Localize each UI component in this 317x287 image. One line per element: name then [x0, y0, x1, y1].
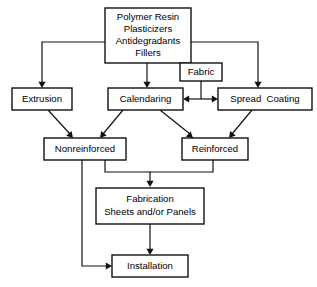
connector-line — [105, 160, 150, 184]
connector-line — [232, 110, 252, 134]
node-label: Antidegradants — [116, 35, 181, 46]
connector-nonreinforced-to-fabrication — [105, 160, 154, 187]
node-label: Spread Coating — [230, 93, 299, 104]
connector-materials-to-calendaring — [143, 63, 150, 88]
node-label: Plasticizers — [124, 23, 173, 34]
node-materials[interactable]: Polymer ResinPlasticizersAntidegradantsF… — [105, 8, 191, 63]
arrowhead — [143, 82, 150, 88]
connector-fabric-to-calendaring — [183, 95, 201, 102]
node-fabrication[interactable]: FabricationSheets and/or Panels — [96, 188, 204, 224]
arrowhead — [254, 82, 261, 88]
node-reinforced[interactable]: Reinforced — [182, 138, 248, 160]
node-label: Fillers — [135, 47, 161, 58]
arrowhead — [146, 181, 153, 187]
connector-fabric-to-spreadcoating — [201, 95, 218, 102]
arrowhead — [229, 131, 236, 138]
node-label: Extrusion — [22, 93, 62, 104]
node-label: Installation — [127, 260, 173, 271]
node-label: Fabrication — [126, 193, 173, 204]
flowchart-canvas: Polymer ResinPlasticizersAntidegradantsF… — [0, 0, 317, 287]
connector-fabrication-to-installation — [146, 224, 153, 255]
node-extrusion[interactable]: Extrusion — [12, 88, 72, 110]
connector-calendaring-to-nonreinforced — [100, 110, 123, 138]
connector-spreadcoating-to-reinforced — [229, 110, 252, 138]
arrowhead — [66, 131, 73, 138]
node-layer: Polymer ResinPlasticizersAntidegradantsF… — [12, 8, 312, 277]
node-nonreinforced[interactable]: Nonreinforced — [44, 138, 126, 160]
arrowhead — [212, 95, 218, 102]
node-label: Calendaring — [120, 93, 172, 104]
connector-extrusion-to-nonreinforced — [48, 110, 73, 138]
connector-line — [103, 110, 123, 134]
connector-line — [42, 42, 105, 86]
connector-reinforced-to-fabrication — [150, 160, 213, 172]
arrowhead — [146, 249, 153, 255]
arrowhead — [100, 131, 107, 138]
connector-line — [150, 160, 213, 172]
node-spread-coating[interactable]: Spread Coating — [218, 88, 312, 110]
arrowhead — [183, 95, 189, 102]
connector-calendaring-to-reinforced — [160, 110, 193, 138]
connector-line — [160, 110, 190, 134]
node-label: Nonreinforced — [55, 143, 115, 154]
node-label: Fabric — [188, 66, 215, 77]
connector-line — [48, 110, 70, 134]
node-label: Sheets and/or Panels — [104, 206, 196, 217]
arrowhead — [106, 262, 112, 269]
connector-materials-to-extrusion — [38, 42, 105, 88]
node-label: Reinforced — [192, 143, 238, 154]
node-fabric[interactable]: Fabric — [180, 63, 222, 81]
flowchart-svg: Polymer ResinPlasticizersAntidegradantsF… — [0, 0, 317, 287]
node-label: Polymer Resin — [117, 11, 179, 22]
node-calendaring[interactable]: Calendaring — [108, 88, 183, 110]
arrowhead — [38, 82, 45, 88]
node-installation[interactable]: Installation — [112, 255, 188, 277]
